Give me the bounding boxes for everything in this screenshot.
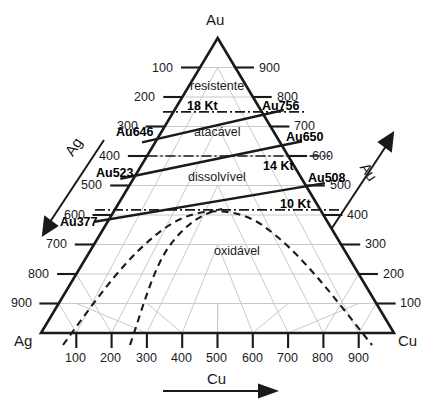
- diagram-canvas: [0, 0, 436, 408]
- right-tick-900: 900: [259, 62, 280, 75]
- axis-label-cu: Cu: [207, 371, 226, 386]
- region-label-oxidavel: oxidável: [214, 245, 260, 258]
- cu-axis-arrowhead: [259, 385, 276, 397]
- bottom-tick-700: 700: [277, 352, 298, 365]
- ternary-diagram: Au Ag Cu 100 200 300 400 500 600 700 800…: [0, 0, 436, 408]
- karat-label-14kt: 14 Kt: [263, 160, 294, 173]
- left-tick-800: 800: [28, 268, 49, 281]
- region-label-atacavel: atacável: [194, 126, 241, 139]
- right-tick-600: 600: [312, 150, 333, 163]
- left-tick-500: 500: [81, 179, 102, 192]
- bottom-tick-500: 500: [206, 352, 227, 365]
- left-tick-900: 900: [11, 297, 32, 310]
- point-label-au650: Au650: [286, 131, 324, 144]
- bottom-tick-800: 800: [312, 352, 333, 365]
- au-axis-arrowhead: [379, 133, 393, 151]
- bottom-tick-600: 600: [242, 352, 263, 365]
- left-tick-700: 700: [46, 238, 67, 251]
- ag-axis-arrowhead: [43, 217, 57, 235]
- bottom-tick-900: 900: [348, 352, 369, 365]
- vertex-label-cu: Cu: [398, 333, 417, 348]
- right-tick-300: 300: [365, 238, 386, 251]
- karat-label-10kt: 10 Kt: [280, 198, 311, 211]
- bottom-tick-400: 400: [171, 352, 192, 365]
- bottom-tick-100: 100: [65, 352, 86, 365]
- right-tick-400: 400: [347, 209, 368, 222]
- oxidavel-inner-arc: [130, 209, 222, 345]
- karat-label-18kt: 18 Kt: [187, 100, 218, 113]
- left-tick-200: 200: [134, 91, 155, 104]
- region-label-dissolvivel: dissolvível: [188, 171, 246, 184]
- point-label-au377: Au377: [60, 216, 98, 229]
- left-tick-400: 400: [99, 150, 120, 163]
- right-tick-100: 100: [400, 297, 421, 310]
- point-label-au756: Au756: [262, 100, 300, 113]
- vertex-label-au: Au: [206, 12, 224, 27]
- left-tick-100: 100: [152, 62, 173, 75]
- right-tick-200: 200: [383, 268, 404, 281]
- point-label-au523: Au523: [96, 167, 134, 180]
- region-label-resistente: resistente: [190, 80, 244, 93]
- bottom-tick-200: 200: [100, 352, 121, 365]
- vertex-label-ag: Ag: [14, 333, 32, 348]
- point-label-au646: Au646: [116, 126, 154, 139]
- point-label-au508: Au508: [308, 172, 346, 185]
- bottom-tick-300: 300: [136, 352, 157, 365]
